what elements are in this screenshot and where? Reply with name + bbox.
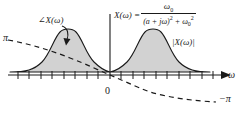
- formula-numerator: ω0: [141, 2, 196, 14]
- magnitude-lobe-left: [10, 29, 110, 72]
- formula-fraction: ω0(a + jω)2 + ω02: [141, 2, 196, 27]
- origin-label: 0: [105, 86, 110, 96]
- phase-annotation-label: ∠X(ω): [38, 16, 63, 25]
- magnitude-lobe-right: [110, 29, 210, 72]
- formula-denominator: (a + jω)2 + ω02: [141, 14, 196, 27]
- omega-axis-label: ω: [228, 70, 235, 80]
- formula-denominator-left: (a + jω): [143, 16, 170, 25]
- formula-lhs: X(ω) =: [114, 10, 140, 20]
- formula-denominator-subscript: 0: [188, 21, 191, 27]
- formula-numerator-subscript: 0: [170, 7, 173, 13]
- fourier-transform-figure: π −π 0 ω ∠X(ω) |X(ω)| X(ω) =ω0(a + jω)2 …: [0, 0, 242, 118]
- transform-formula: X(ω) =ω0(a + jω)2 + ω02: [114, 3, 197, 28]
- formula-denominator-exponent-2: 2: [191, 15, 194, 21]
- negative-pi-label: −π: [219, 94, 231, 104]
- formula-denominator-mid: + ω: [173, 16, 188, 25]
- magnitude-annotation-label: |X(ω)|: [172, 38, 195, 47]
- pi-label: π: [3, 33, 8, 43]
